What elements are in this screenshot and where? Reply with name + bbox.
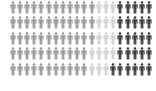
person-icon: [102, 16, 109, 30]
person-icon: [45, 32, 52, 46]
person-icon: [59, 1, 66, 15]
person-icon: [23, 63, 30, 77]
person-icon: [16, 1, 23, 15]
person-icon: [88, 47, 95, 61]
person-icon: [88, 1, 95, 15]
person-icon: [117, 32, 124, 46]
person-icon: [9, 47, 16, 61]
person-icon: [67, 32, 74, 46]
person-icon: [45, 63, 52, 77]
person-icon: [31, 32, 38, 46]
person-icon: [67, 1, 74, 15]
person-icon: [59, 32, 66, 46]
person-icon: [102, 63, 109, 77]
person-icon: [124, 63, 131, 77]
person-icon: [59, 47, 66, 61]
person-icon: [95, 1, 102, 15]
person-icon: [45, 1, 52, 15]
person-icon: [146, 1, 153, 15]
person-icon: [110, 63, 117, 77]
person-icon: [110, 16, 117, 30]
pictograph-row: [9, 32, 153, 47]
person-icon: [124, 16, 131, 30]
person-icon: [23, 16, 30, 30]
person-icon: [67, 63, 74, 77]
person-icon: [81, 1, 88, 15]
person-icon: [38, 47, 45, 61]
person-icon: [16, 16, 23, 30]
person-icon: [138, 32, 145, 46]
person-icon: [67, 16, 74, 30]
person-icon: [124, 32, 131, 46]
person-icon: [38, 63, 45, 77]
person-icon: [146, 32, 153, 46]
person-icon: [117, 47, 124, 61]
person-icon: [102, 32, 109, 46]
person-icon: [124, 1, 131, 15]
person-icon: [52, 16, 59, 30]
person-icon: [81, 16, 88, 30]
person-icon: [138, 63, 145, 77]
person-icon: [124, 47, 131, 61]
person-icon: [131, 1, 138, 15]
person-icon: [146, 63, 153, 77]
person-icon: [31, 1, 38, 15]
person-icon: [131, 63, 138, 77]
person-icon: [117, 63, 124, 77]
person-icon: [67, 47, 74, 61]
person-icon: [102, 1, 109, 15]
person-icon: [74, 16, 81, 30]
person-icon: [131, 47, 138, 61]
person-icon: [138, 1, 145, 15]
person-icon: [59, 63, 66, 77]
pictograph-row: [9, 63, 153, 78]
person-icon: [31, 63, 38, 77]
person-icon: [81, 47, 88, 61]
person-icon: [16, 47, 23, 61]
person-icon: [74, 32, 81, 46]
person-icon: [131, 16, 138, 30]
person-icon: [117, 16, 124, 30]
person-icon: [146, 47, 153, 61]
person-icon: [95, 63, 102, 77]
person-icon: [45, 47, 52, 61]
person-icon: [16, 32, 23, 46]
person-icon: [59, 16, 66, 30]
person-icon: [31, 16, 38, 30]
person-icon: [23, 47, 30, 61]
person-icon: [95, 32, 102, 46]
person-icon: [146, 16, 153, 30]
pictograph-row: [9, 1, 153, 16]
person-icon: [9, 32, 16, 46]
person-icon: [52, 63, 59, 77]
person-icon: [102, 47, 109, 61]
person-icon: [38, 1, 45, 15]
person-icon: [74, 47, 81, 61]
person-icon: [81, 32, 88, 46]
pictograph-row: [9, 16, 153, 31]
person-icon: [95, 16, 102, 30]
person-icon: [52, 32, 59, 46]
person-icon: [131, 32, 138, 46]
person-icon: [110, 47, 117, 61]
person-icon: [138, 16, 145, 30]
person-icon: [38, 32, 45, 46]
person-icon: [45, 16, 52, 30]
person-icon: [23, 1, 30, 15]
person-icon-grid: [9, 1, 153, 78]
person-icon: [81, 63, 88, 77]
person-icon: [38, 16, 45, 30]
person-icon: [16, 63, 23, 77]
person-icon: [52, 47, 59, 61]
person-icon: [52, 1, 59, 15]
person-icon: [31, 47, 38, 61]
person-icon: [117, 1, 124, 15]
person-icon: [95, 47, 102, 61]
person-icon: [88, 16, 95, 30]
person-icon: [138, 47, 145, 61]
person-icon: [74, 1, 81, 15]
person-icon: [88, 63, 95, 77]
person-icon: [9, 63, 16, 77]
person-icon: [9, 1, 16, 15]
person-icon: [88, 32, 95, 46]
